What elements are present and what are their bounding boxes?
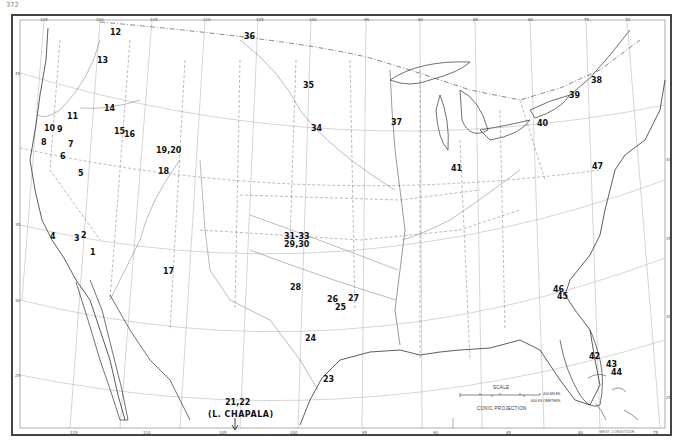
site-label: 47	[592, 163, 603, 171]
site-label: 40	[537, 120, 548, 128]
site-label: 36	[244, 33, 255, 41]
site-label: 28	[290, 284, 301, 292]
site-label: 17	[163, 268, 174, 276]
site-label: 2	[81, 232, 87, 240]
site-label: 9	[57, 126, 63, 134]
scale-miles-label: 400 MILES	[543, 392, 560, 396]
site-label: 42	[589, 353, 600, 361]
scale-km-label: 600 KILOMETERS	[531, 399, 560, 403]
tick-lat: 35	[666, 236, 671, 241]
site-label: 37	[391, 119, 402, 127]
site-label: 18	[158, 168, 169, 176]
base-map	[0, 0, 685, 442]
tick-lon: 100	[290, 430, 298, 435]
tick-lon: 105	[256, 17, 264, 22]
tick-lon: 85	[506, 430, 511, 435]
site-label: 16	[124, 131, 135, 139]
tick-lon: 115	[150, 17, 158, 22]
site-label: 39	[569, 92, 580, 100]
site-label: 24	[305, 335, 316, 343]
site-label: 44	[611, 369, 622, 377]
tick-lon: 105	[219, 430, 227, 435]
tick-lat: 25	[15, 373, 20, 378]
tick-lon: 125	[40, 17, 48, 22]
tick-lon: 90	[418, 17, 423, 22]
tick-lat: 30	[666, 314, 671, 319]
site-label: 12	[110, 29, 121, 37]
site-label: 10	[44, 125, 55, 133]
tick-lon: 110	[203, 17, 211, 22]
site-label: 7	[68, 141, 74, 149]
tick-lon: 110	[143, 430, 151, 435]
site-label: 26	[327, 296, 338, 304]
site-label: 41	[451, 165, 462, 173]
projection-label: CONIC PROJECTION	[477, 406, 527, 411]
tick-lon: 75	[653, 430, 658, 435]
scale-title: SCALE	[493, 385, 509, 390]
tick-lat: 25	[666, 395, 671, 400]
tick-lon: 120	[96, 17, 104, 22]
site-label: 27	[348, 295, 359, 303]
tick-lon: 85	[473, 17, 478, 22]
site-label: 31-33	[284, 233, 310, 241]
chapala-site-numbers: 21,22	[225, 398, 250, 407]
tick-lon: 90	[433, 430, 438, 435]
tick-lon: 80	[578, 430, 583, 435]
tick-lat: 30	[15, 298, 20, 303]
site-label: 34	[311, 125, 322, 133]
chapala-label: (L. CHAPALA)	[208, 410, 274, 419]
tick-lat: 35	[15, 222, 20, 227]
site-label: 35	[303, 82, 314, 90]
site-label: 6	[60, 153, 66, 161]
site-label: 29,30	[284, 241, 309, 249]
site-label: 23	[323, 376, 334, 384]
west-longitude-label: WEST LONGITUDE	[599, 430, 635, 434]
site-label: 38	[591, 77, 602, 85]
tick-lon: 80	[528, 17, 533, 22]
site-label: 11	[67, 113, 78, 121]
tick-lon: 95	[364, 17, 369, 22]
site-label: 45	[557, 293, 568, 301]
tick-lon: 115	[70, 430, 78, 435]
site-label: 13	[97, 57, 108, 65]
tick-lon: 100	[309, 17, 317, 22]
tick-lat: 40	[666, 157, 671, 162]
site-label: 46	[553, 286, 564, 294]
tick-lon: 70	[625, 17, 630, 22]
site-label: 3	[74, 235, 80, 243]
site-label: 1	[90, 249, 96, 257]
site-label: 5	[78, 170, 84, 178]
site-label: 25	[335, 304, 346, 312]
tick-lat: 45	[15, 71, 20, 76]
site-label: 4	[50, 233, 56, 241]
site-label: 14	[104, 105, 115, 113]
tick-lon: 95	[362, 430, 367, 435]
tick-lon: 75	[584, 17, 589, 22]
site-label: 8	[41, 139, 47, 147]
site-label: 19,20	[156, 147, 181, 155]
scale-legend: SCALE 400 MILES 600 KILOMETERS CONIC PRO…	[455, 385, 565, 415]
